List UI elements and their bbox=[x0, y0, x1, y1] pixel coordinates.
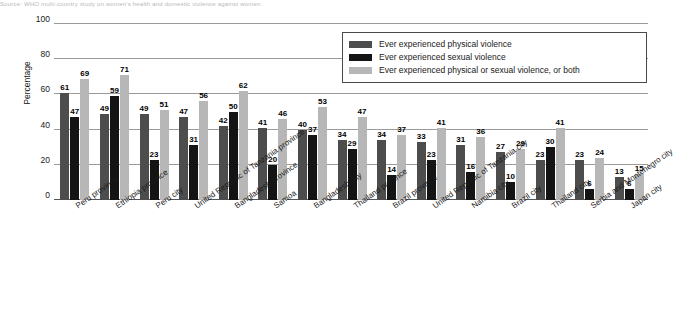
bar bbox=[70, 117, 79, 200]
bar-value-label: 47 bbox=[355, 107, 370, 116]
bar-value-label: 34 bbox=[374, 130, 389, 139]
legend-swatch-icon bbox=[349, 41, 372, 48]
bar-value-label: 69 bbox=[77, 69, 92, 78]
bar bbox=[585, 189, 594, 200]
bar-group: 403753 bbox=[298, 24, 327, 200]
bar-group: 473156 bbox=[179, 24, 208, 200]
bar bbox=[278, 119, 287, 200]
bar bbox=[80, 79, 89, 200]
bar-value-label: 51 bbox=[157, 100, 172, 109]
bar bbox=[160, 110, 169, 200]
bar-value-label: 23 bbox=[572, 150, 587, 159]
bar-value-label: 53 bbox=[315, 97, 330, 106]
bar-value-label: 47 bbox=[176, 107, 191, 116]
legend-swatch-icon bbox=[349, 67, 372, 74]
bar bbox=[318, 107, 327, 200]
bar bbox=[437, 128, 446, 200]
bar-value-label: 13 bbox=[612, 167, 627, 176]
bar bbox=[556, 128, 565, 200]
legend-item: Ever experienced physical or sexual viol… bbox=[349, 64, 640, 76]
bar-value-label: 46 bbox=[275, 109, 290, 118]
x-axis-labels: Peru provinceEthiopia provincePeru cityU… bbox=[54, 203, 648, 323]
bar-value-label: 41 bbox=[434, 118, 449, 127]
legend-label: Ever experienced physical or sexual viol… bbox=[379, 65, 580, 75]
bar-value-label: 49 bbox=[137, 104, 152, 113]
bar bbox=[546, 147, 555, 200]
bar-value-label: 71 bbox=[117, 65, 132, 74]
bar-value-label: 24 bbox=[592, 148, 607, 157]
bar-value-label: 41 bbox=[255, 118, 270, 127]
bar bbox=[625, 189, 634, 200]
y-tick-label: 20 bbox=[4, 155, 50, 165]
legend-swatch-icon bbox=[349, 54, 372, 61]
bar bbox=[239, 91, 248, 200]
y-axis-title: Percentage bbox=[22, 23, 32, 143]
legend-label: Ever experienced physical violence bbox=[379, 39, 512, 49]
bar bbox=[189, 145, 198, 200]
y-tick-label: 0 bbox=[4, 190, 50, 200]
bar-value-label: 41 bbox=[553, 118, 568, 127]
chart-legend: Ever experienced physical violenceEver e… bbox=[342, 32, 647, 83]
bar bbox=[358, 117, 367, 200]
bar-value-label: 56 bbox=[196, 91, 211, 100]
bar-value-label: 61 bbox=[57, 83, 72, 92]
bar-group: 614769 bbox=[60, 24, 89, 200]
legend-item: Ever experienced physical violence bbox=[349, 38, 640, 50]
bar-group: 495971 bbox=[100, 24, 129, 200]
bar-value-label: 37 bbox=[394, 125, 409, 134]
bar-value-label: 62 bbox=[236, 81, 251, 90]
legend-item: Ever experienced sexual violence bbox=[349, 51, 640, 63]
bar bbox=[199, 101, 208, 200]
bar-value-label: 31 bbox=[453, 135, 468, 144]
bar-value-label: 34 bbox=[335, 130, 350, 139]
bar-value-label: 33 bbox=[414, 132, 429, 141]
legend-label: Ever experienced sexual violence bbox=[379, 52, 506, 62]
bar bbox=[298, 130, 307, 200]
bar-value-label: 36 bbox=[473, 127, 488, 136]
bar bbox=[120, 75, 129, 200]
bar bbox=[308, 135, 317, 200]
